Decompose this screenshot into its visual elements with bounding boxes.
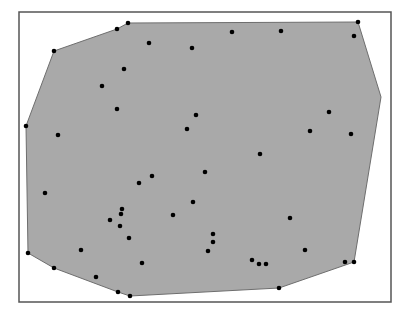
- data-point: [190, 46, 195, 51]
- data-point: [115, 27, 120, 32]
- data-point: [349, 132, 354, 137]
- data-point: [100, 84, 105, 89]
- data-point: [115, 107, 120, 112]
- data-point: [206, 249, 211, 254]
- data-point: [211, 240, 216, 245]
- data-point: [118, 224, 123, 229]
- data-point: [194, 113, 199, 118]
- data-point: [94, 275, 99, 280]
- data-point: [127, 236, 132, 241]
- data-point: [119, 212, 124, 217]
- data-point: [26, 251, 31, 256]
- data-point: [343, 260, 348, 265]
- data-point: [24, 124, 29, 129]
- data-point: [185, 127, 190, 132]
- data-point: [277, 286, 282, 291]
- data-point: [140, 261, 145, 266]
- data-point: [327, 110, 332, 115]
- data-point: [258, 152, 263, 157]
- data-point: [137, 181, 142, 186]
- data-point: [150, 174, 155, 179]
- data-point: [43, 191, 48, 196]
- data-point: [230, 30, 235, 35]
- data-point: [211, 232, 216, 237]
- data-point: [116, 290, 121, 295]
- data-point: [308, 129, 313, 134]
- data-point: [79, 248, 84, 253]
- data-point: [122, 67, 127, 72]
- data-point: [191, 200, 196, 205]
- data-point: [257, 262, 262, 267]
- data-point: [352, 34, 357, 39]
- data-point: [171, 213, 176, 218]
- convex-hull-chart: [0, 0, 407, 318]
- data-point: [264, 262, 269, 267]
- data-point: [126, 21, 131, 26]
- convex-hull-polygon: [26, 22, 381, 296]
- data-point: [56, 133, 61, 138]
- data-point: [147, 41, 152, 46]
- data-point: [128, 294, 133, 299]
- data-point: [352, 260, 357, 265]
- data-point: [279, 29, 284, 34]
- data-point: [52, 266, 57, 271]
- data-point: [356, 20, 361, 25]
- data-point: [52, 49, 57, 54]
- data-point: [108, 218, 113, 223]
- data-point: [250, 258, 255, 263]
- data-point: [303, 248, 308, 253]
- data-point: [203, 170, 208, 175]
- data-point: [288, 216, 293, 221]
- data-point: [120, 207, 125, 212]
